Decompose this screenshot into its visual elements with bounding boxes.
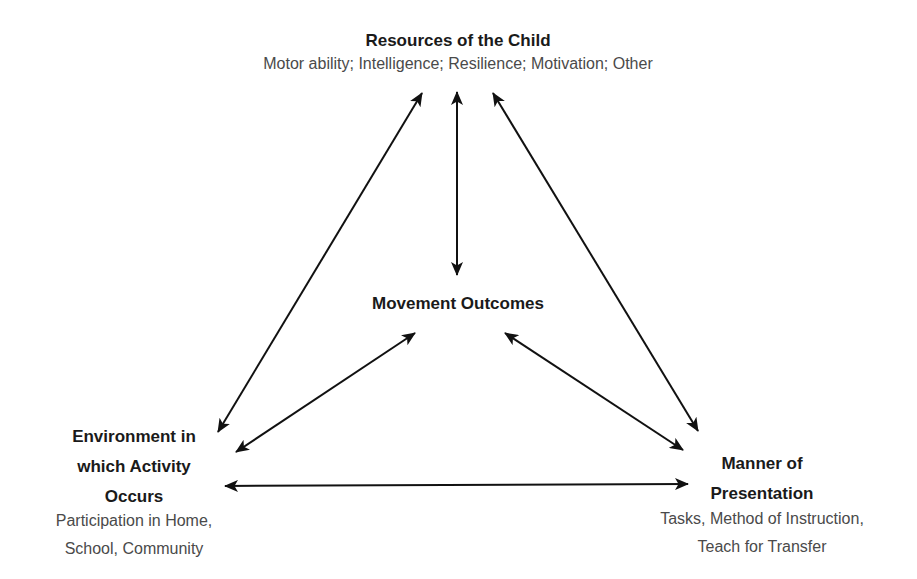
manner-title: Manner of Presentation [612, 449, 912, 509]
node-movement-outcomes: Movement Outcomes [308, 289, 608, 319]
arrow-resources-environment [218, 93, 422, 432]
environment-title-line: Environment in [0, 422, 284, 452]
outcomes-title: Movement Outcomes [308, 289, 608, 319]
arrow-outcomes-manner [505, 333, 683, 450]
environment-description: Participation in Home, School, Community [0, 507, 284, 563]
arrow-resources-manner [493, 93, 698, 431]
manner-description-line: Tasks, Method of Instruction, [612, 505, 912, 533]
node-manner-of-presentation: Manner of Presentation [612, 449, 912, 509]
node-environment-description: Participation in Home, School, Community [0, 507, 284, 563]
manner-description-line: Teach for Transfer [612, 533, 912, 561]
environment-title-line: which Activity [0, 452, 284, 482]
manner-title-line: Manner of [612, 449, 912, 479]
node-resources-description: Motor ability; Intelligence; Resilience;… [158, 50, 758, 78]
node-manner-description: Tasks, Method of Instruction, Teach for … [612, 505, 912, 561]
environment-description-line: Participation in Home, [0, 507, 284, 535]
environment-description-line: School, Community [0, 535, 284, 563]
movement-outcomes-diagram: Resources of the Child Motor ability; In… [0, 0, 917, 579]
node-environment: Environment in which Activity Occurs [0, 422, 284, 512]
resources-description: Motor ability; Intelligence; Resilience;… [158, 50, 758, 78]
manner-description: Tasks, Method of Instruction, Teach for … [612, 505, 912, 561]
environment-title: Environment in which Activity Occurs [0, 422, 284, 512]
